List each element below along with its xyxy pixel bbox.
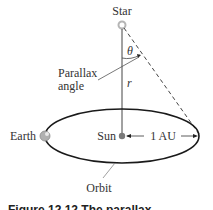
- au-arrow-right-icon: [193, 134, 198, 138]
- parallax-label-line2: angle: [58, 79, 84, 93]
- sun-label: Sun: [97, 129, 116, 143]
- orbit-leader-line: [103, 163, 115, 178]
- au-arrow-left-icon: [126, 134, 131, 138]
- figure-caption: Figure 12.12 The parallax: [8, 203, 152, 210]
- sun-icon: [119, 133, 125, 139]
- orbit-label: Orbit: [86, 181, 112, 195]
- earth-highlight: [45, 132, 49, 136]
- parallax-leader-line: [98, 57, 139, 80]
- earth-label: Earth: [10, 129, 36, 143]
- au-label: 1 AU: [150, 129, 176, 143]
- sightline-dashed: [124, 28, 199, 134]
- parallax-label-line1: Parallax: [58, 66, 97, 80]
- earth-icon: [40, 131, 50, 141]
- parallax-diagram: Star θ Parallax angle r Earth Sun 1 AU O…: [0, 0, 213, 210]
- theta-label: θ: [127, 44, 133, 58]
- r-label: r: [127, 76, 132, 90]
- star-icon: [119, 22, 126, 29]
- star-label: Star: [112, 4, 131, 18]
